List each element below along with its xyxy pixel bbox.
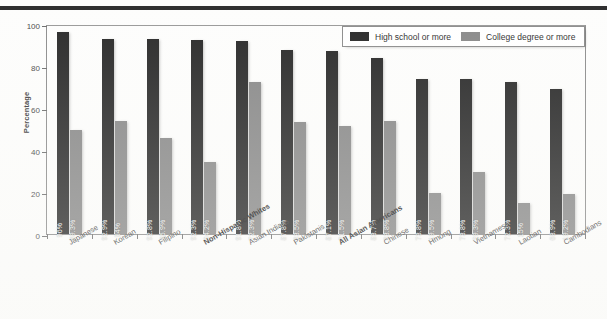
bar-group: 87.8%53.5% [271,26,316,234]
x-label-cell: Chinese [361,237,406,315]
bar-college-degree[interactable]: 53.5% [294,122,306,234]
bar-high-school[interactable]: 73.8% [416,79,428,234]
y-tick-label: 100 [27,22,40,31]
bar-college-degree[interactable]: 29.3% [473,172,485,234]
bar-high-school[interactable]: 92.8% [147,39,159,234]
bar-college-degree[interactable]: 54% [115,121,127,234]
bar-high-school[interactable]: 73.8% [460,79,472,234]
legend-swatch-icon-high-school [350,32,369,41]
bar-college-degree[interactable]: 45.9% [160,138,172,234]
legend-label-college-degree: College degree or more [486,32,575,42]
x-label-cell: Vietnamese [451,237,496,315]
bar-college-degree[interactable]: 49.3% [70,130,82,234]
y-tick-label: 60 [31,106,40,115]
bar-group: 92.8%45.9% [137,26,182,234]
legend-item-high-school[interactable]: High school or more [350,32,451,42]
chart-legend: High school or more College degree or mo… [342,26,585,47]
x-label-cell: Filipino [136,237,181,315]
bar-group: 87.1%51.5% [316,26,361,234]
x-label-cell: Laotian [496,237,541,315]
bar-group: 73.8%29.3% [450,26,495,234]
bar-college-degree[interactable]: 19.5% [429,193,441,234]
bar-high-school[interactable]: 91.8% [236,41,248,234]
y-axis-title: Percentage [22,73,31,153]
bar-college-degree[interactable]: 15% [518,203,530,235]
bar-high-school[interactable]: 96% [57,32,69,234]
bar-group: 92.3%34.2% [181,26,226,234]
bar-group: 73.8%19.5% [406,26,451,234]
bar-group: 92.9%54% [92,26,137,234]
bar-high-school[interactable]: 87.8% [281,50,293,234]
y-tick-label: 20 [31,190,40,199]
bar-college-degree[interactable]: 51.5% [339,126,351,234]
bar-high-school[interactable]: 68.9% [550,89,562,234]
bar-high-school[interactable]: 72.3% [505,82,517,234]
x-label-cell: Asian Indians [226,237,271,315]
bar-high-school[interactable]: 83.7% [371,58,383,234]
x-label-cell: Japanese [46,237,91,315]
bar-high-school[interactable]: 92.3% [191,40,203,234]
y-tick-label: 0 [36,232,40,241]
bar-group: 96%49.3% [47,26,92,234]
x-label-cell: Korean [91,237,136,315]
bar-high-school[interactable]: 87.1% [326,51,338,234]
y-tick-label: 40 [31,148,40,157]
x-label-cell: Pakistanis [271,237,316,315]
y-tick-label: 80 [31,64,40,73]
x-label-cell: Hmong [406,237,451,315]
x-label-cell: Cambodians [541,237,586,315]
legend-item-college-degree[interactable]: College degree or more [461,32,575,42]
header-rule [0,6,607,10]
legend-swatch-icon-college-degree [461,32,480,41]
bar-college-degree[interactable]: 34.2% [204,162,216,234]
bar-value-label: 96% [56,223,63,238]
bar-group: 72.3%15% [495,26,540,234]
bar-college-degree[interactable]: 19.2% [563,194,575,234]
chart-figure: Percentage 020406080100 96%49.3%92.9%54%… [0,0,607,319]
x-label-cell: Non-Hispanic Whites [181,237,226,315]
bar-high-school[interactable]: 92.9% [102,39,114,234]
x-axis-labels: JapaneseKoreanFilipinoNon-Hispanic White… [46,237,586,315]
plot-area: 020406080100 96%49.3%92.9%54%92.8%45.9%9… [46,25,586,235]
x-label-cell: All Asian Americans [316,237,361,315]
bar-groups: 96%49.3%92.9%54%92.8%45.9%92.3%34.2%91.8… [47,26,585,234]
legend-label-high-school: High school or more [375,32,451,42]
bar-group: 68.9%19.2% [540,26,585,234]
